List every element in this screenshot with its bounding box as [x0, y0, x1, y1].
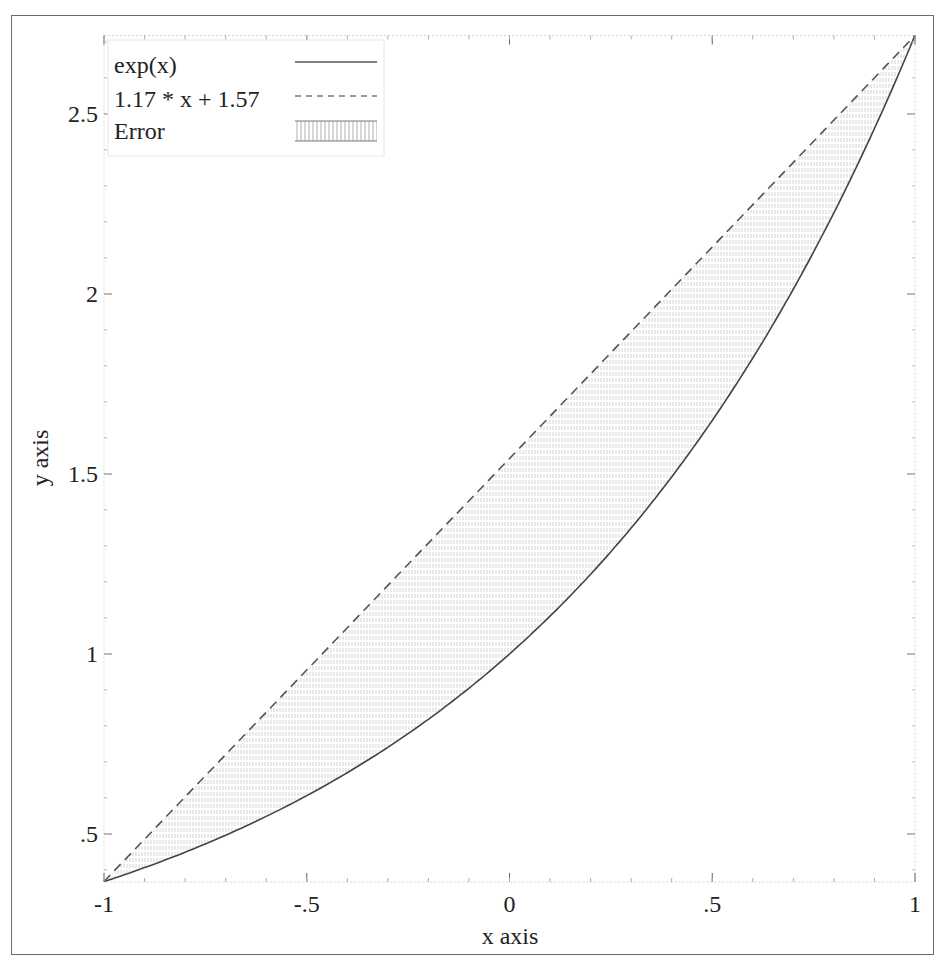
y-axis-label: y axis — [27, 430, 53, 487]
x-tick-label: 0 — [504, 891, 516, 917]
y-tick-label: .5 — [80, 821, 98, 847]
y-tick-label: 1.5 — [68, 461, 98, 487]
x-tick-label: .5 — [703, 891, 721, 917]
y-tick-labels: .511.522.5 — [68, 101, 98, 847]
legend-hatch-icon — [295, 121, 377, 141]
legend-label-exp: exp(x) — [114, 52, 177, 78]
x-axis-label: x axis — [482, 923, 539, 949]
legend: exp(x) 1.17 * x + 1.57 Error — [108, 40, 384, 156]
x-tick-label: 1 — [909, 891, 921, 917]
legend-label-linear: 1.17 * x + 1.57 — [114, 86, 260, 112]
x-tick-label: -1 — [94, 891, 114, 917]
legend-label-error: Error — [114, 118, 165, 144]
y-tick-label: 2 — [86, 281, 98, 307]
chart: -1-.50.51 .511.522.5 x axis y axis exp(x… — [0, 0, 937, 962]
y-tick-label: 2.5 — [68, 101, 98, 127]
x-tick-label: -.5 — [294, 891, 320, 917]
x-tick-labels: -1-.50.51 — [94, 891, 921, 917]
y-tick-label: 1 — [86, 641, 98, 667]
